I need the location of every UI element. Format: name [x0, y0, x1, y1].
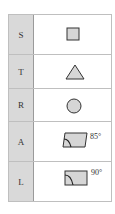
angle-label: 90°	[91, 168, 102, 177]
table-row: L 90°	[9, 162, 111, 201]
square-icon	[66, 27, 80, 41]
table-row: A 85°	[9, 122, 111, 162]
triangle-icon	[65, 64, 85, 80]
row-label: T	[9, 55, 34, 88]
shape-cell	[34, 15, 111, 54]
row-label: R	[9, 89, 34, 121]
table-row: R	[9, 89, 111, 122]
circle-icon	[66, 98, 82, 114]
shape-cell: 85°	[34, 122, 111, 161]
table-row: T	[9, 55, 111, 89]
rectangle-right-angle-icon	[64, 170, 88, 186]
angle-label: 85°	[90, 132, 101, 141]
shape-cell: 90°	[34, 162, 111, 201]
shape-table: S T R A 85° L	[8, 14, 112, 202]
parallelogram-angle-icon	[62, 132, 88, 148]
shape-cell	[34, 89, 111, 121]
row-label: A	[9, 122, 34, 161]
row-label: L	[9, 162, 34, 201]
shape-cell	[34, 55, 111, 88]
row-label: S	[9, 15, 34, 54]
table-row: S	[9, 15, 111, 55]
